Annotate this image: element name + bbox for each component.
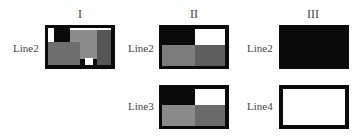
dark-gray-block — [97, 30, 111, 65]
dark-gray-bottom-right — [195, 105, 225, 126]
pattern-box-col2-line2 — [159, 25, 229, 69]
column-header-ii: II — [174, 7, 214, 22]
row-label-col2-line3: Line3 — [128, 100, 154, 112]
white-small-square — [85, 58, 93, 65]
mid-gray-block — [48, 42, 80, 65]
white-top-right-block — [195, 89, 225, 105]
row-label-col2-line2: Line2 — [128, 42, 154, 54]
dark-gray-bottom-right — [195, 45, 225, 66]
pattern-box-col3-line2 — [279, 25, 349, 69]
row-label-col1-line2: Line2 — [13, 42, 39, 54]
row-label-col3-line4: Line4 — [247, 100, 273, 112]
column-header-iii: III — [293, 7, 333, 22]
pattern-box-col3-line4 — [279, 85, 349, 129]
column-header-i: I — [60, 7, 100, 22]
light-gray-bottom-left — [162, 45, 195, 66]
row-label-col3-line2: Line2 — [247, 42, 273, 54]
white-top-right-block — [195, 29, 225, 45]
white-left-bar — [48, 28, 54, 43]
pattern-box-col2-line3 — [159, 85, 229, 129]
light-gray-bottom-left — [162, 105, 195, 126]
pattern-box-col1-line2 — [45, 25, 115, 69]
